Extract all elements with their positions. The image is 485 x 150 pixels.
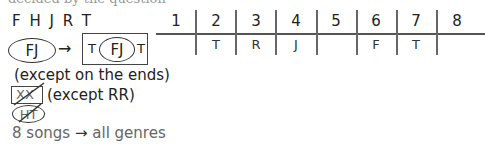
fj-block-label: FJ xyxy=(25,42,38,60)
slot-header-8: 8 xyxy=(437,12,477,30)
slot-header-2: 2 xyxy=(196,12,236,30)
slot-value-6: F xyxy=(356,37,396,52)
slot-table: 1 2 3 4 5 6 7 8 T R J F T xyxy=(156,0,485,60)
slot-value-4: J xyxy=(276,37,316,52)
slot-value-2: T xyxy=(196,37,236,52)
slot-value-3: R xyxy=(236,37,276,52)
t-fj-t-box: T FJ T xyxy=(82,33,148,65)
t-right-label: T xyxy=(137,41,145,56)
slot-header-1: 1 xyxy=(156,12,196,30)
fj-inner-label: FJ xyxy=(110,41,123,59)
slot-header-5: 5 xyxy=(316,12,356,30)
arrow-icon: → xyxy=(58,39,71,58)
crossed-ht-ellipse: HT xyxy=(12,105,45,123)
t-left-label: T xyxy=(88,41,96,56)
genres-label: all genres xyxy=(92,124,165,142)
fj-inner-ellipse: FJ xyxy=(99,37,135,62)
strike-icon xyxy=(15,102,45,126)
cutoff-heading-text: decided by the question xyxy=(8,0,166,6)
arrow-icon: → xyxy=(75,124,88,142)
songs-count-label: 8 songs xyxy=(12,124,70,142)
slot-value-7: T xyxy=(396,37,436,52)
fj-block-ellipse: FJ xyxy=(8,38,56,63)
slot-header-6: 6 xyxy=(356,12,396,30)
slot-header-3: 3 xyxy=(236,12,276,30)
songs-genres-note: 8 songs → all genres xyxy=(12,124,166,142)
variable-letters: F H J R T xyxy=(12,12,92,30)
slot-header-4: 4 xyxy=(276,12,316,30)
rr-caveat: (except RR) xyxy=(47,86,135,104)
slot-header-7: 7 xyxy=(396,12,436,30)
